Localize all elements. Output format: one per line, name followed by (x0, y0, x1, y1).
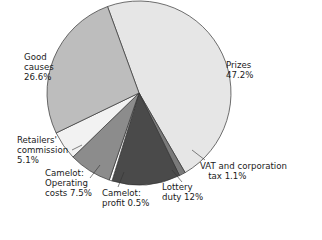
label-vat: VAT and corporation tax 1.1% (200, 161, 287, 181)
label-camelot-operating: Camelot: Operating costs 7.5% (45, 168, 92, 198)
label-good-causes: Good causes 26.6% (24, 52, 54, 82)
label-lottery: Lottery duty 12% (162, 182, 203, 202)
label-camelot-profit: Camelot: profit 0.5% (102, 188, 149, 208)
label-retailers: Retailers' commission 5.1% (17, 135, 68, 165)
label-prizes: Prizes 47.2% (226, 60, 253, 80)
